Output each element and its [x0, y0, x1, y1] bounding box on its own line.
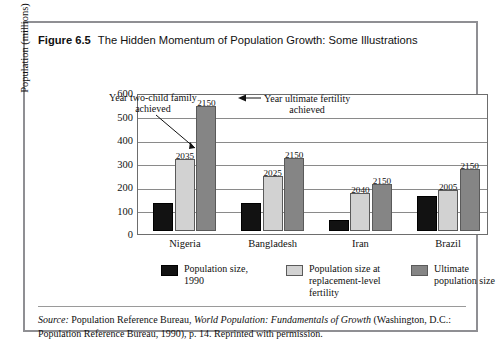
y-axis-tick-label: 200: [93, 183, 133, 194]
y-axis-ticks: 0100200300400500600: [87, 94, 133, 235]
x-axis-label-bangladesh: Bangladesh: [228, 238, 318, 249]
source-divider: [38, 306, 466, 307]
bar-nigeria-series-1: [175, 159, 195, 231]
legend-label: Population size atreplacement-levelferti…: [309, 263, 414, 298]
legend: Population size,1990Population size atre…: [161, 263, 491, 305]
legend-label: Population size,1990: [184, 263, 289, 287]
bar-value-label: 2025: [261, 169, 285, 178]
annotation-left-line1: Year two-child family: [109, 92, 197, 103]
legend-swatch: [161, 265, 178, 276]
gridline: [138, 142, 487, 143]
bar-bangladesh-series-2: [284, 158, 304, 231]
bar-nigeria-series-0: [153, 203, 173, 231]
bar-brazil-series-1: [438, 190, 458, 231]
annotation-left-line2: achieved: [109, 103, 197, 114]
bar-value-label: 2040: [348, 186, 372, 195]
source-note: Source: Population Reference Bureau, Wor…: [38, 313, 470, 340]
chart: Population (millions) 010020030040050060…: [25, 23, 476, 330]
source-prefix: Source:: [38, 314, 69, 325]
bar-bangladesh-series-1: [263, 176, 283, 231]
bar-bangladesh-series-0: [241, 203, 261, 231]
x-axis-label-nigeria: Nigeria: [140, 238, 230, 249]
x-axis-label-brazil: Brazil: [403, 238, 493, 249]
bar-iran-series-2: [372, 184, 392, 231]
bar-value-label: 2150: [458, 162, 482, 171]
bar-brazil-series-2: [460, 169, 480, 231]
bar-value-label: 2150: [194, 99, 218, 108]
annotation-right-line2: achieved: [264, 104, 350, 115]
y-axis-tick-label: 400: [93, 136, 133, 147]
bar-value-label: 2035: [173, 152, 197, 161]
y-axis-tick-label: 100: [93, 207, 133, 218]
annotation-ultimate-fertility: Year ultimate fertility achieved: [264, 93, 350, 115]
gridline: [138, 118, 487, 119]
legend-swatch: [286, 265, 303, 276]
bar-nigeria-series-2: [196, 106, 216, 231]
bar-value-label: 2150: [282, 151, 306, 160]
annotation-two-child-family: Year two-child family achieved: [109, 92, 197, 114]
figure-container: Figure 6.5The Hidden Momentum of Populat…: [23, 21, 478, 332]
y-axis-tick-label: 0: [93, 230, 133, 241]
legend-swatch: [411, 265, 428, 276]
bar-value-label: 2005: [436, 183, 460, 192]
bar-value-label: 2150: [370, 177, 394, 186]
source-publisher: Population Reference Bureau,: [69, 314, 194, 325]
annotation-right-line1: Year ultimate fertility: [264, 93, 350, 104]
bar-iran-series-0: [329, 220, 349, 231]
legend-label: Ultimatepopulation size: [434, 263, 503, 287]
x-axis-label-iran: Iran: [315, 238, 405, 249]
bar-brazil-series-0: [417, 196, 437, 231]
bar-iran-series-1: [350, 193, 370, 231]
y-axis-tick-label: 300: [93, 160, 133, 171]
y-axis-title: Population (millions): [19, 0, 30, 123]
source-title: World Population: Fundamentals of Growth: [194, 314, 371, 325]
